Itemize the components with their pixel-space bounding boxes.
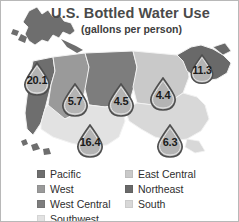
legend-item-pacific[interactable]: Pacific [37,167,125,181]
legend-swatch-icon [125,200,133,208]
legend-item-label: East Central [138,168,196,180]
value-marker-label: 4.4 [146,89,180,102]
value-marker-label: 6.3 [153,136,187,149]
legend-swatch-icon [37,200,45,208]
map-region-hawaii [21,139,51,155]
legend-item-west-central[interactable]: West Central [37,197,125,211]
legend-column-left: Pacific West West Central Southwest [37,167,125,222]
legend-item-label: Northeast [138,183,184,195]
value-marker-south: 6.3 [153,124,187,160]
chart-subtitle: (gallons per person) [23,23,239,36]
legend-item-southwest[interactable]: Southwest [37,212,125,222]
legend-column-right: East Central Northeast South [125,167,225,222]
legend-item-label: Pacific [50,168,81,180]
value-marker-northeast: 11.3 [187,54,217,86]
infographic-root: U.S. Bottled Water Use (gallons per pers… [0,0,239,222]
value-marker-label: 4.5 [104,95,138,108]
value-marker-label: 5.7 [58,95,92,108]
value-marker-label: 20.1 [20,74,54,87]
chart-title: U.S. Bottled Water Use [21,5,239,21]
value-marker-west: 5.7 [58,83,92,119]
value-marker-pacific: 20.1 [20,62,54,98]
legend-swatch-icon [37,215,45,222]
legend-item-west[interactable]: West [37,182,125,196]
legend-swatch-icon [125,170,133,178]
legend-swatch-icon [37,170,45,178]
legend-item-east-central[interactable]: East Central [125,167,225,181]
legend-item-south[interactable]: South [125,197,225,211]
legend-item-label: West Central [50,198,111,210]
legend-swatch-icon [125,185,133,193]
value-marker-southwest: 16.4 [73,124,107,160]
legend-item-northeast[interactable]: Northeast [125,182,225,196]
value-marker-label: 11.3 [187,64,217,77]
legend-item-label: West [50,183,74,195]
legend-item-label: South [138,198,165,210]
legend-item-label: Southwest [50,213,99,222]
legend-swatch-icon [37,185,45,193]
legend: Pacific West West Central Southwest East… [37,167,237,222]
value-marker-west-central: 4.5 [104,83,138,119]
chart-header: U.S. Bottled Water Use (gallons per pers… [1,5,239,36]
value-marker-east-central: 4.4 [146,77,180,113]
value-marker-label: 16.4 [73,136,107,149]
